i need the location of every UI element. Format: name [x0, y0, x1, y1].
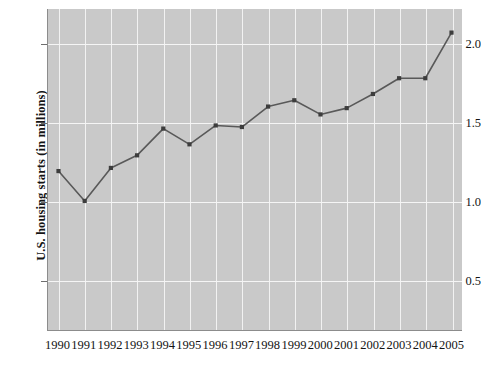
data-point-1996 — [214, 123, 218, 127]
data-point-1991 — [83, 199, 87, 203]
series-line-housing-starts — [58, 33, 451, 201]
data-point-1995 — [187, 142, 191, 146]
data-point-2001 — [345, 106, 349, 110]
data-point-1990 — [56, 169, 60, 173]
housing-starts-line-chart: U.S. housing starts (in millions) 0.51.0… — [0, 0, 481, 367]
data-point-2004 — [423, 76, 427, 80]
data-point-1998 — [266, 104, 270, 108]
data-point-2002 — [371, 92, 375, 96]
plot-inner — [48, 9, 462, 330]
data-point-1997 — [240, 125, 244, 129]
data-series-housing-starts — [48, 9, 462, 330]
data-point-1994 — [161, 126, 165, 130]
data-point-2005 — [449, 31, 453, 35]
data-point-1993 — [135, 153, 139, 157]
plot-area — [47, 9, 462, 331]
data-point-2000 — [318, 112, 322, 116]
data-point-1992 — [109, 166, 113, 170]
x-tick-label-2005: 2005 — [432, 338, 472, 353]
data-point-1999 — [292, 98, 296, 102]
data-point-2003 — [397, 76, 401, 80]
